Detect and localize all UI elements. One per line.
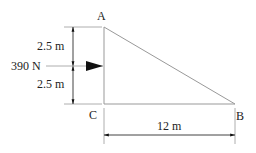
point-b-label: B xyxy=(236,109,244,123)
upper-dimension-label: 2.5 m xyxy=(37,39,65,53)
lower-dimension-label: 2.5 m xyxy=(37,77,65,91)
point-a-label: A xyxy=(97,9,106,23)
base-dimension-label: 12 m xyxy=(157,119,182,133)
truss-diagram: A C B 390 N 2.5 m 2.5 m 12 m xyxy=(0,0,256,153)
point-c-label: C xyxy=(89,108,97,122)
force-arrow xyxy=(46,61,103,71)
triangle-member xyxy=(104,27,235,104)
force-label: 390 N xyxy=(11,59,41,73)
